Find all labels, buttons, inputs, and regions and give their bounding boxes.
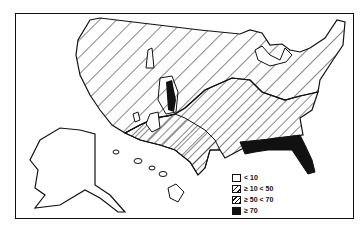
legend-item: < 10 <box>232 172 273 183</box>
dense-hatch-swatch-icon <box>232 196 241 204</box>
legend-label: ≥ 50 < 70 <box>244 196 273 203</box>
map-legend: < 10 ≥ 10 < 50 ≥ 50 < 70 ≥ 70 <box>232 172 273 216</box>
legend-label: < 10 <box>244 174 258 181</box>
florida-solid <box>240 135 315 174</box>
wide-hatch-swatch-icon <box>232 185 241 193</box>
alaska <box>30 128 125 212</box>
us-choropleth-map <box>0 0 363 228</box>
blank-swatch-icon <box>232 174 241 182</box>
legend-item: ≥ 50 < 70 <box>232 194 273 205</box>
hawaii <box>113 150 184 202</box>
legend-label: ≥ 10 < 50 <box>244 185 273 192</box>
legend-item: ≥ 10 < 50 <box>232 183 273 194</box>
solid-swatch-icon <box>232 207 241 215</box>
legend-item: ≥ 70 <box>232 205 273 216</box>
legend-label: ≥ 70 <box>244 207 258 214</box>
